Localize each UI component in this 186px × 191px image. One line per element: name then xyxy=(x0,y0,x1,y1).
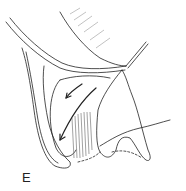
panel-label: E xyxy=(22,170,31,185)
illustration-drawing xyxy=(0,0,186,191)
